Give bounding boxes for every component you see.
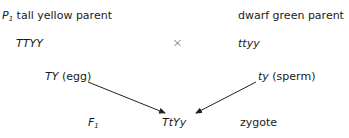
arrows-layer (0, 0, 349, 138)
sperm-arrow (196, 82, 256, 113)
egg-arrow (88, 82, 165, 113)
